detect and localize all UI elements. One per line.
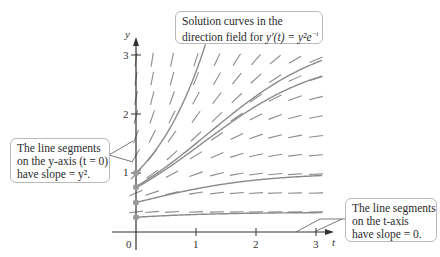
slope-segment: [251, 54, 260, 65]
initial-point-dot: [133, 214, 139, 220]
slope-segment: [288, 154, 302, 156]
slope-segment: [230, 193, 244, 194]
slope-segment: [189, 192, 203, 194]
slope-segment: [288, 115, 302, 119]
callout-leader: [109, 155, 133, 162]
slope-segment: [288, 96, 301, 101]
slope-segment: [167, 151, 177, 160]
slope-segment: [309, 174, 323, 175]
solution-curves: [136, 44, 322, 217]
t-callout-line-2: on the t-axis: [352, 215, 430, 228]
slope-segment: [165, 212, 179, 213]
slope-segment: [151, 72, 154, 86]
slope-segment: [193, 72, 198, 85]
slope-segment: [232, 93, 242, 103]
slope-segment: [269, 115, 282, 120]
y-callout-line-3: have slope = y².: [17, 168, 103, 181]
slope-segment: [145, 211, 159, 212]
solution-curve: [136, 176, 322, 203]
slope-segment: [230, 133, 243, 139]
slope-segment: [288, 174, 302, 175]
x-tick-label: 3: [313, 238, 319, 250]
solution-curve: [136, 213, 322, 218]
slope-segment: [249, 173, 263, 175]
slope-segment: [309, 96, 323, 99]
x-tick-label: 0: [126, 238, 132, 250]
slope-segment: [268, 174, 282, 175]
slope-segment: [150, 110, 155, 123]
y-axis-slope-callout: The line segments on the y-axis (t = 0) …: [10, 138, 110, 183]
initial-point-dot: [133, 170, 139, 176]
slope-segment: [210, 192, 224, 194]
y-axis-arrow-icon: [133, 37, 139, 46]
slope-segment: [211, 133, 223, 141]
slope-segment: [192, 111, 200, 122]
slope-segment: [210, 173, 224, 176]
initial-point-dot: [133, 200, 139, 206]
slope-segment: [230, 173, 244, 175]
t-axis-arrow-icon: [325, 229, 334, 235]
t-callout-line-1: The line segments: [352, 202, 430, 215]
slope-segment: [309, 116, 323, 119]
slope-segment: [171, 53, 174, 67]
slope-segment: [230, 153, 243, 157]
x-tick-label: 1: [193, 238, 199, 250]
initial-point-dot: [133, 184, 139, 190]
slope-segment: [193, 92, 200, 104]
y-tick-label: 1: [123, 166, 129, 178]
equation-exponent: −t: [312, 30, 319, 38]
slope-segment: [270, 55, 281, 64]
slope-segment: [232, 73, 241, 84]
t-axis-slope-callout: The line segments on the t-axis have slo…: [345, 198, 437, 242]
slope-segment: [268, 193, 282, 194]
t-callout-line-3: have slope = 0.: [352, 228, 430, 241]
slope-segment: [213, 93, 221, 104]
slope-segment: [268, 154, 282, 156]
slope-segment: [289, 56, 301, 63]
slope-segment: [168, 131, 176, 142]
slope-segment: [150, 91, 154, 105]
direction-field-figure: y t 0 1 2 3 1 2 3 Solution curves in the…: [0, 0, 440, 257]
slope-segment: [212, 112, 222, 122]
slope-segment: [233, 54, 241, 66]
x-tick-label: 2: [253, 238, 259, 250]
slope-segment: [249, 193, 263, 194]
slope-segment: [189, 212, 203, 213]
slope-segment: [149, 130, 155, 142]
title-line-1: Solution curves in the: [182, 15, 316, 28]
slope-segment: [170, 91, 175, 104]
slope-segment: [213, 73, 220, 85]
slope-segment: [309, 136, 323, 138]
slope-segment: [146, 191, 159, 195]
slope-segment: [249, 134, 262, 139]
slope-segment: [190, 152, 202, 159]
slope-segment: [194, 53, 198, 66]
slope-segment: [288, 135, 302, 138]
slope-segment: [249, 154, 263, 157]
slope-segment: [289, 76, 302, 82]
slope-segment: [151, 53, 153, 67]
y-tick-label: 2: [123, 108, 129, 120]
slope-segment: [189, 172, 202, 177]
y-callout-line-2: on the y-axis (t = 0): [17, 155, 103, 168]
slope-segment: [250, 114, 262, 120]
y-tick-label: 3: [123, 49, 129, 61]
callout-leader: [109, 141, 133, 155]
slope-segment: [214, 53, 220, 66]
slope-segment: [211, 153, 224, 159]
slope-segment: [170, 72, 174, 86]
title-line-2: direction field for y′(t) = y²e−t: [182, 28, 316, 44]
y-axis-label: y: [125, 28, 130, 40]
solution-curve: [136, 76, 322, 188]
y-callout-line-1: The line segments: [17, 142, 103, 155]
direction-field-segments: [129, 53, 323, 213]
slope-segment: [309, 155, 323, 156]
title-callout: Solution curves in the direction field f…: [175, 11, 323, 44]
slope-segment: [251, 74, 261, 83]
t-axis-label: t: [332, 236, 335, 248]
equation: y′(t) = y²e: [266, 31, 312, 43]
slope-segment: [166, 171, 178, 177]
slope-segment: [268, 135, 282, 138]
